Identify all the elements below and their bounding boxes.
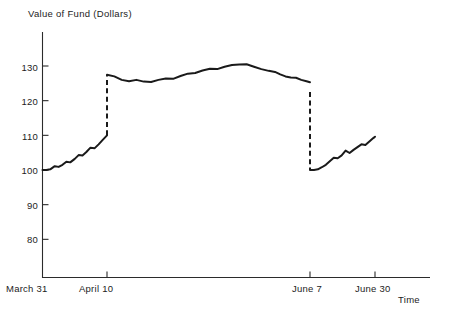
chart-plot-area: [0, 0, 449, 311]
fund-value-series: [43, 64, 376, 170]
y-axis-ticks: [43, 66, 49, 239]
fund-line-segment-2: [107, 64, 310, 82]
fund-value-chart: Value of Fund (Dollars) Time 80 90 100 1…: [0, 0, 449, 311]
x-axis-ticks: [107, 272, 375, 278]
fund-line-segment-3: [310, 137, 375, 170]
fund-line-segment-1: [43, 135, 108, 170]
